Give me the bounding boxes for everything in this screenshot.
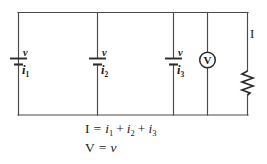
cell-3-current-label: i3: [177, 63, 184, 79]
circuit-diagram-figure: v i1 v i2 v i3 V: [0, 0, 267, 164]
equations-block: I=i1+i2+i3 V=v: [85, 121, 156, 155]
cell-2-current-label: i2: [101, 63, 108, 79]
voltage-equation: V=v: [85, 140, 116, 155]
cell-1-current-label: i1: [22, 63, 29, 79]
cell-3-voltage-label: v: [178, 47, 183, 58]
branch-resistor: I: [242, 26, 254, 95]
branch-voltmeter: V: [200, 13, 216, 116]
branch-cell-3: v i3: [165, 13, 184, 116]
voltmeter-symbol-label: V: [204, 54, 212, 66]
branch-cell-2: v i2: [89, 13, 108, 116]
cell-2-voltage-label: v: [102, 47, 107, 58]
branch-cell-1: v i1: [10, 47, 29, 79]
total-current-label: I: [250, 26, 254, 41]
resistor-icon: [242, 71, 253, 95]
cell-1-voltage-label: v: [23, 47, 28, 58]
current-equation: I=i1+i2+i3: [85, 121, 156, 138]
